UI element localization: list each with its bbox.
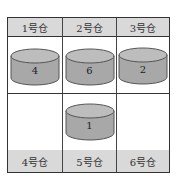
cylinder-value: 2 [118,64,168,75]
top-label-row: 1号仓 2号仓 3号仓 [8,18,169,37]
warehouse-label-4: 4号仓 [8,154,62,169]
bottom-label-row: 4号仓 5号仓 6号仓 [8,150,169,172]
warehouse-label-5: 5号仓 [63,154,116,169]
storage-cell-4 [8,93,63,150]
cylinder-icon: 1 [65,103,115,141]
bottom-storage-row: 1 [8,93,169,151]
warehouse-label-2: 2号仓 [63,20,116,35]
label-cell-4: 4号仓 [8,150,63,172]
warehouse-label-6: 6号仓 [117,154,169,169]
label-cell-2: 2号仓 [63,18,117,36]
label-cell-6: 6号仓 [117,150,169,172]
warehouse-label-1: 1号仓 [8,20,62,35]
cylinder-value: 6 [65,65,115,76]
cylinder-icon: 2 [118,47,168,85]
cylinder-icon: 6 [65,48,115,86]
storage-cell-2: 6 [63,36,117,93]
storage-cell-5: 1 [63,93,117,150]
storage-cell-1: 4 [8,36,63,93]
label-cell-1: 1号仓 [8,18,63,36]
warehouse-label-3: 3号仓 [117,20,169,35]
top-storage-row: 4 6 2 [8,36,169,94]
label-cell-5: 5号仓 [63,150,117,172]
storage-cell-3: 2 [117,36,169,93]
cylinder-icon: 4 [10,48,60,86]
cylinder-value: 1 [65,120,115,131]
storage-cell-6 [117,93,169,150]
warehouse-grid: 1号仓 2号仓 3号仓 4 6 2 1 [7,17,170,173]
label-cell-3: 3号仓 [117,18,169,36]
cylinder-value: 4 [10,65,60,76]
